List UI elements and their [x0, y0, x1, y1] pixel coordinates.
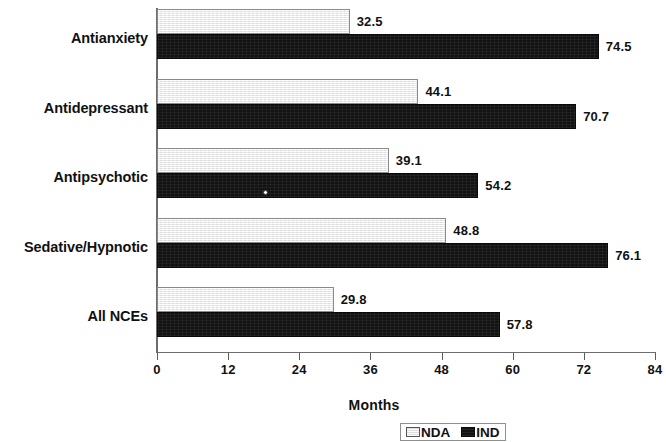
- bar-value-label: 57.8: [507, 312, 533, 337]
- x-axis-line: [157, 352, 656, 353]
- bar-group: Sedative/Hypnotic48.876.1: [0, 218, 666, 268]
- bar-value-label: 54.2: [485, 173, 511, 198]
- chart-legend: NDA IND: [400, 423, 506, 441]
- bar-chart: 012243648607284 Antianxiety32.574.5Antid…: [0, 0, 666, 442]
- bar-group: Antidepressant44.170.7: [0, 79, 666, 129]
- x-axis-tick: [584, 353, 585, 360]
- bar-value-label: 44.1: [425, 79, 451, 104]
- x-axis-tick-label: 60: [505, 362, 520, 377]
- x-axis-tick-label: 0: [153, 362, 160, 377]
- bar-ind: [157, 243, 608, 268]
- bar-value-label: 70.7: [583, 104, 609, 129]
- bar-value-label: 32.5: [357, 9, 383, 34]
- x-axis-tick-label: 36: [363, 362, 378, 377]
- bar-nda: [157, 9, 350, 34]
- category-label: Sedative/Hypnotic: [0, 239, 148, 255]
- x-axis-tick: [228, 353, 229, 360]
- x-axis-tick: [513, 353, 514, 360]
- legend-label-ind: IND: [476, 425, 499, 440]
- bar-value-label: 48.8: [453, 218, 479, 243]
- bar-value-label: 29.8: [341, 287, 367, 312]
- legend-swatch-ind-icon: [461, 427, 475, 437]
- category-label: Antidepressant: [0, 100, 148, 116]
- x-axis-tick: [370, 353, 371, 360]
- bar-group: All NCEs29.857.8: [0, 287, 666, 337]
- x-axis-tick-label: 12: [221, 362, 236, 377]
- category-label: All NCEs: [0, 308, 148, 324]
- legend-item-ind: IND: [461, 425, 499, 440]
- scan-artifact-speck: [263, 190, 268, 195]
- x-axis-tick-label: 48: [434, 362, 449, 377]
- bar-nda: [157, 218, 446, 243]
- x-axis-tick-label: 72: [576, 362, 591, 377]
- x-axis-tick-label: 84: [648, 362, 663, 377]
- bar-value-label: 74.5: [606, 34, 632, 59]
- category-label: Antipsychotic: [0, 169, 148, 185]
- x-axis-title-text: Months: [267, 397, 400, 413]
- legend-label-nda: NDA: [421, 425, 450, 440]
- x-axis-tick: [655, 353, 656, 360]
- bar-nda: [157, 148, 389, 173]
- bar-value-label: 39.1: [396, 148, 422, 173]
- bar-ind: [157, 34, 599, 59]
- category-label: Antianxiety: [0, 30, 148, 46]
- bar-ind: [157, 104, 576, 129]
- legend-item-nda: NDA: [406, 425, 450, 440]
- bar-group: Antipsychotic39.154.2: [0, 148, 666, 198]
- x-axis-tick: [157, 353, 158, 360]
- x-axis-tick-label: 24: [292, 362, 307, 377]
- x-axis-tick: [299, 353, 300, 360]
- bar-group: Antianxiety32.574.5: [0, 9, 666, 59]
- x-axis-title: Months: [0, 397, 666, 413]
- bar-ind: [157, 173, 478, 198]
- x-axis-tick: [442, 353, 443, 360]
- bar-nda: [157, 79, 418, 104]
- legend-swatch-nda-icon: [406, 427, 420, 437]
- bar-value-label: 76.1: [615, 243, 641, 268]
- bar-ind: [157, 312, 500, 337]
- bar-nda: [157, 287, 334, 312]
